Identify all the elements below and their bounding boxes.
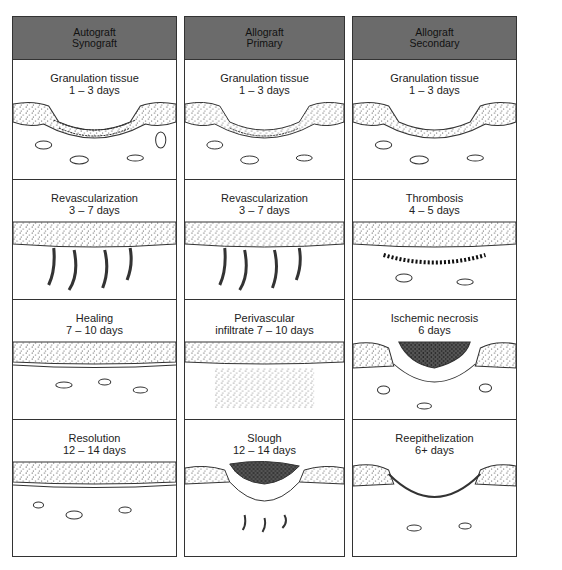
- slough-illustration: [185, 460, 344, 538]
- stage-title: Revascularization: [13, 192, 176, 204]
- header-line-2: Secondary: [409, 37, 459, 49]
- stage-perivascular-infiltrate: Perivascularinfiltrate 7 – 10 days: [185, 300, 344, 420]
- column-header: AutograftSynograft: [13, 17, 176, 60]
- revascularization-illustration: [185, 220, 344, 298]
- stage-granulation: Granulation tissue1 – 3 days: [185, 60, 344, 180]
- resolution-illustration: [13, 460, 176, 538]
- ischemic-necrosis-illustration: [353, 340, 516, 418]
- stage-resolution: Resolution12 – 14 days: [13, 420, 176, 557]
- stage-thrombosis: Thrombosis4 – 5 days: [353, 180, 516, 300]
- stage-duration: 12 – 14 days: [185, 444, 344, 456]
- stage-title: Ischemic necrosis: [353, 312, 516, 324]
- stage-duration: 3 – 7 days: [185, 204, 344, 216]
- reepithelization-illustration: [353, 460, 516, 538]
- stage-duration: 4 – 5 days: [353, 204, 516, 216]
- stage-granulation: Granulation tissue1 – 3 days: [13, 60, 176, 180]
- column-autograft: AutograftSynograft Granulation tissue1 –…: [12, 16, 177, 557]
- stage-duration: 7 – 10 days: [13, 324, 176, 336]
- stage-duration: 1 – 3 days: [185, 84, 344, 96]
- granulation-illustration: [185, 100, 344, 178]
- granulation-illustration: [13, 100, 176, 178]
- stage-title: Slough: [185, 432, 344, 444]
- stage-title: Resolution: [13, 432, 176, 444]
- stage-duration: 1 – 3 days: [353, 84, 516, 96]
- stage-granulation: Granulation tissue1 – 3 days: [353, 60, 516, 180]
- stage-healing: Healing7 – 10 days: [13, 300, 176, 420]
- stage-revascularization: Revascularization3 – 7 days: [13, 180, 176, 300]
- stage-duration: 12 – 14 days: [13, 444, 176, 456]
- stage-title: Revascularization: [185, 192, 344, 204]
- stage-title: Perivascular: [185, 312, 344, 324]
- stage-title: Thrombosis: [353, 192, 516, 204]
- stage-duration: infiltrate 7 – 10 days: [185, 324, 344, 336]
- thrombosis-illustration: [353, 220, 516, 298]
- stage-duration: 6 days: [353, 324, 516, 336]
- perivascular-infiltrate-illustration: [185, 340, 344, 418]
- stage-title: Healing: [13, 312, 176, 324]
- header-line-2: Primary: [246, 37, 282, 49]
- stage-duration: 6+ days: [353, 444, 516, 456]
- granulation-illustration: [353, 100, 516, 178]
- healing-illustration: [13, 340, 176, 418]
- column-allograft-secondary: AllograftSecondary Granulation tissue1 –…: [352, 16, 517, 557]
- stage-duration: 1 – 3 days: [13, 84, 176, 96]
- column-header: AllograftSecondary: [353, 17, 516, 60]
- header-line-2: Synograft: [72, 37, 117, 49]
- stage-title: Granulation tissue: [185, 72, 344, 84]
- revascularization-illustration: [13, 220, 176, 298]
- stage-title: Reepithelization: [353, 432, 516, 444]
- stage-duration: 3 – 7 days: [13, 204, 176, 216]
- stage-title: Granulation tissue: [13, 72, 176, 84]
- stage-slough: Slough12 – 14 days: [185, 420, 344, 557]
- stage-title: Granulation tissue: [353, 72, 516, 84]
- stage-ischemic-necrosis: Ischemic necrosis6 days: [353, 300, 516, 420]
- column-header: AllograftPrimary: [185, 17, 344, 60]
- column-allograft-primary: AllograftPrimary Granulation tissue1 – 3…: [184, 16, 345, 557]
- stage-reepithelization: Reepithelization6+ days: [353, 420, 516, 557]
- stage-revascularization: Revascularization3 – 7 days: [185, 180, 344, 300]
